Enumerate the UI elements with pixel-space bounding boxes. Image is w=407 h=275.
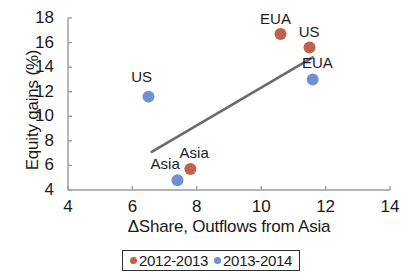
scatter-chart-figure: Equity gains (%) ΔShare, Outflows from A… [0,0,407,275]
legend-label-2013-2014: 2013-2014 [223,253,292,268]
point-label-asia-4: Asia [180,145,209,160]
legend-item-2012-2013[interactable]: 2012-2013 [130,253,208,268]
point-label-eua-2: EUA [302,55,333,70]
legend-color-swatch-blue [214,257,221,264]
legend-label-2012-2013: 2012-2013 [139,253,208,268]
data-point-2012-2013-EUA[interactable] [275,28,287,40]
legend-item-2013-2014[interactable]: 2013-2014 [214,253,292,268]
data-point-2012-2013-US[interactable] [304,41,316,53]
data-point-2012-2013-Asia[interactable] [184,163,196,175]
point-label-us-3: US [131,69,152,84]
data-point-2013-2014-US[interactable] [143,91,155,103]
data-point-2013-2014-EUA[interactable] [307,73,319,85]
data-point-2013-2014-Asia[interactable] [171,174,183,186]
chart-legend: 2012-2013 2013-2014 [122,250,300,271]
trend-line [152,57,313,152]
point-label-asia-5: Asia [151,156,180,171]
plot-area [0,0,407,275]
point-label-eua-0: EUA [260,11,291,26]
point-label-us-1: US [299,24,320,39]
legend-color-swatch-red [130,257,137,264]
